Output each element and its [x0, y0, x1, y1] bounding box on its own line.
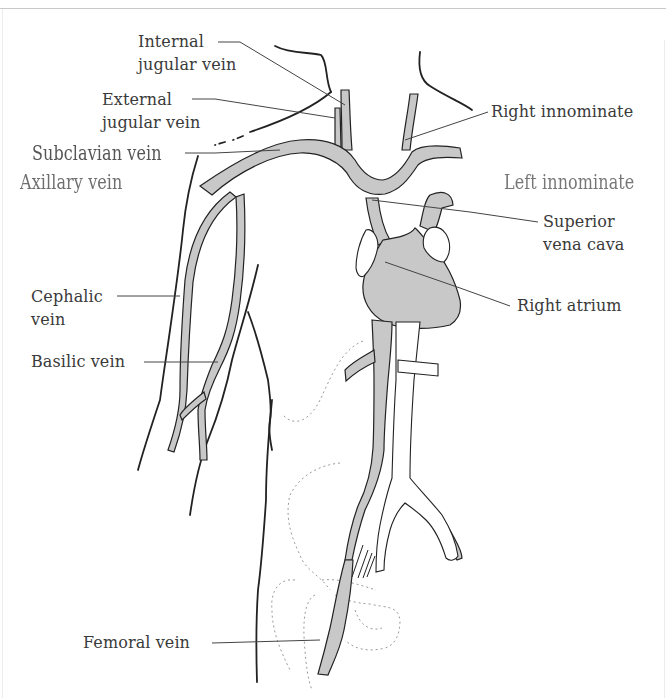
- neck-left-outline: [275, 46, 331, 92]
- label-right-innominate: Right innominate: [491, 101, 633, 122]
- left-innominate-branch: [420, 192, 453, 232]
- subclavian-axillary-vein: [200, 140, 462, 195]
- leg-outer-outline: [256, 400, 272, 682]
- label-left-innominate: Left innominate: [504, 169, 634, 195]
- label-superior-vena-cava-line1: Superior: [543, 211, 615, 232]
- label-right-atrium: Right atrium: [517, 295, 622, 316]
- internal-jugular-vein-left: [341, 90, 352, 150]
- torso-side-outline: [248, 312, 272, 450]
- leader-femoral: [212, 640, 320, 643]
- leader-superior-vena-cava: [372, 200, 538, 222]
- internal-jugular-vein-right: [402, 94, 418, 150]
- label-internal-jugular-line1: Internal: [138, 31, 204, 52]
- label-external-jugular-line1: External: [102, 89, 172, 110]
- femoral-vein: [318, 560, 353, 675]
- diagram-frame: Internal jugular vein External jugular v…: [0, 0, 666, 698]
- label-subclavian-vein: Subclavian vein: [32, 140, 162, 166]
- label-axillary-vein: Axillary vein: [20, 169, 122, 195]
- neck-right-outline: [419, 52, 472, 110]
- external-jugular-vein: [335, 108, 341, 148]
- label-superior-vena-cava-line2: vena cava: [543, 234, 624, 255]
- veins: [168, 90, 462, 675]
- label-cephalic-line2: vein: [31, 309, 65, 330]
- iliac-detail-lines: [352, 545, 375, 578]
- leader-external-jugular: [192, 99, 335, 118]
- leader-right-innominate: [405, 112, 488, 140]
- label-basilic-vein: Basilic vein: [31, 351, 125, 372]
- label-internal-jugular-line2: jugular vein: [138, 54, 236, 75]
- renal-vein: [345, 350, 375, 381]
- label-cephalic-line1: Cephalic: [31, 286, 103, 307]
- label-femoral-vein: Femoral vein: [83, 632, 190, 653]
- shoulder-line: [250, 92, 331, 132]
- arm-inner-outline: [190, 265, 258, 515]
- label-external-jugular-line2: jugular vein: [102, 112, 200, 133]
